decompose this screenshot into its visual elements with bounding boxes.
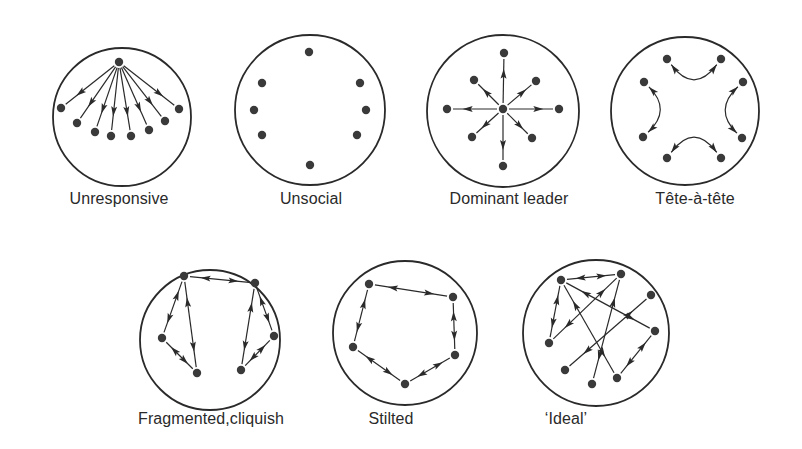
arrowhead-icon — [646, 123, 657, 134]
diagram-unresponsive — [53, 48, 191, 186]
diagram-label-unsocial: Unsocial — [280, 190, 342, 208]
person-node — [613, 374, 621, 382]
person-node — [717, 55, 725, 63]
arrowhead-icon — [86, 97, 97, 109]
arrowhead-icon — [364, 353, 376, 364]
person-node — [250, 106, 258, 114]
two-way-arrow — [553, 278, 616, 339]
diagram-unsocial — [235, 35, 385, 185]
two-way-arrow — [453, 303, 455, 349]
two-way-arrow — [550, 286, 560, 337]
arrowhead-icon — [728, 124, 739, 135]
person-node — [545, 339, 553, 347]
two-way-arrow — [164, 282, 182, 333]
two-way-arc-arrow — [671, 137, 717, 152]
person-node — [499, 162, 507, 170]
diagram-tete-a-tete — [611, 37, 759, 185]
arrowhead-icon — [247, 302, 255, 313]
person-node — [193, 369, 201, 377]
one-way-arrow — [80, 67, 115, 118]
arrowhead-icon — [360, 298, 368, 309]
person-node — [470, 76, 478, 84]
two-way-arrow — [354, 290, 367, 341]
arrowhead-icon — [123, 106, 131, 117]
person-node — [651, 327, 659, 335]
diagram-label-ideal: ‘Ideal’ — [545, 410, 588, 428]
diagram-label-stilted: Stilted — [368, 410, 413, 428]
person-node — [499, 105, 507, 113]
two-way-arrow — [242, 289, 254, 364]
diagram-dominant-leader — [427, 35, 579, 187]
two-way-arrow — [358, 350, 400, 380]
diagram-label-fragmented-cliquish: Fragmented,cliquish — [138, 410, 284, 428]
arrowhead-icon — [241, 340, 249, 351]
two-way-arrow — [375, 285, 447, 296]
person-node — [175, 105, 183, 113]
arrowhead-icon — [383, 367, 395, 378]
group-circle — [611, 37, 759, 185]
arrowhead-icon — [173, 290, 182, 301]
person-node — [251, 279, 259, 287]
person-node — [468, 133, 476, 141]
person-node — [588, 380, 596, 388]
person-node — [306, 161, 314, 169]
arrowhead-icon — [433, 360, 445, 370]
person-node — [107, 132, 115, 140]
person-node — [739, 78, 747, 86]
one-way-arrow — [476, 113, 498, 133]
two-way-arrow — [594, 280, 620, 378]
diagram-label-unresponsive: Unresponsive — [69, 190, 168, 208]
person-node — [663, 55, 671, 63]
diagram-fragmented-cliquish — [140, 270, 280, 410]
person-node — [555, 105, 563, 113]
two-way-arrow — [567, 275, 615, 280]
diagram-ideal — [523, 260, 669, 406]
arrowhead-icon — [580, 288, 592, 298]
one-way-arrow — [507, 113, 528, 134]
two-way-arrow — [410, 358, 450, 381]
person-node — [500, 49, 508, 57]
one-way-arrow — [503, 59, 504, 103]
person-node — [158, 334, 166, 342]
person-node — [617, 270, 625, 278]
person-node — [443, 105, 451, 113]
person-node — [356, 79, 364, 87]
two-way-arrow — [245, 340, 270, 365]
diagram-label-tete-a-tete: Tête-à-tête — [655, 190, 734, 208]
arrowhead-icon — [164, 313, 173, 324]
person-node — [451, 351, 459, 359]
person-node — [305, 48, 313, 56]
two-way-arrow — [621, 336, 651, 374]
arrowhead-icon — [570, 299, 580, 311]
person-node — [91, 128, 99, 136]
person-node — [270, 332, 278, 340]
arrowhead-icon — [549, 318, 557, 329]
person-node — [532, 77, 540, 85]
person-node — [557, 276, 565, 284]
person-node — [639, 133, 647, 141]
person-node — [401, 380, 409, 388]
person-node — [738, 134, 746, 142]
person-node — [237, 366, 245, 374]
diagram-label-dominant-leader: Dominant leader — [450, 190, 569, 208]
arrowhead-icon — [134, 102, 144, 114]
two-way-arrow — [185, 282, 196, 367]
one-way-arrow — [121, 67, 146, 124]
diagram-stilted — [333, 261, 477, 405]
person-node — [73, 119, 81, 127]
one-way-arrow — [112, 68, 119, 130]
one-way-arrow — [478, 84, 499, 105]
person-node — [180, 272, 188, 280]
person-node — [640, 78, 648, 86]
person-node — [57, 104, 65, 112]
person-node — [127, 132, 135, 140]
person-node — [161, 117, 169, 125]
person-node — [353, 131, 361, 139]
communication-patterns-diagram — [0, 0, 802, 449]
person-node — [647, 291, 655, 299]
person-node — [561, 366, 569, 374]
arrowhead-icon — [729, 85, 740, 96]
person-node — [145, 126, 153, 134]
one-way-arrow — [120, 68, 130, 130]
one-way-arrow — [508, 85, 532, 105]
